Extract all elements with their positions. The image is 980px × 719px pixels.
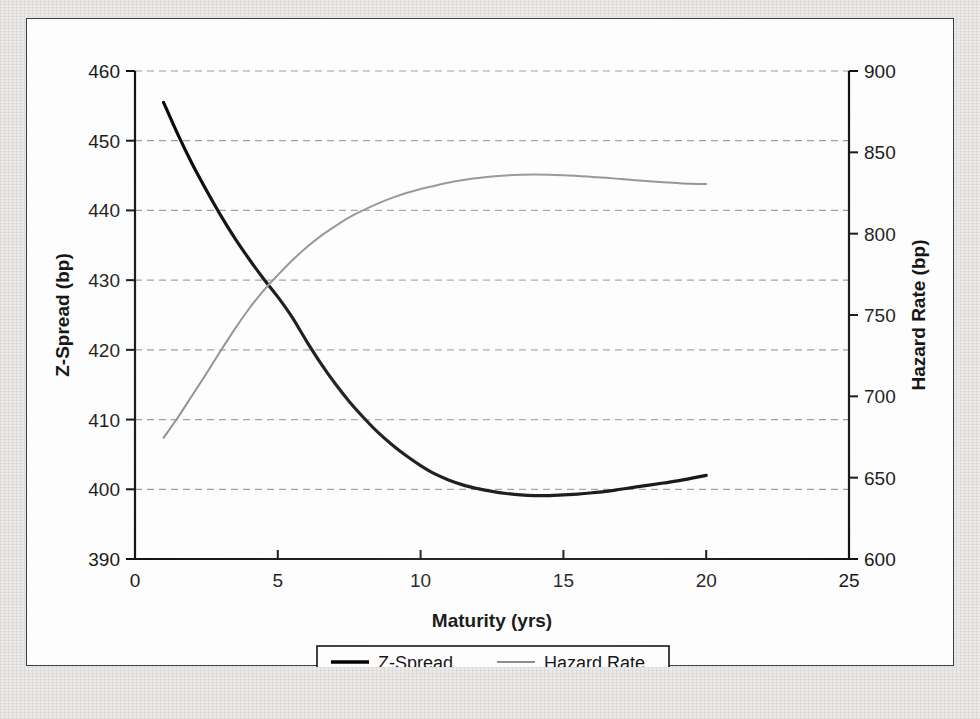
x-tick-label: 25 (838, 570, 859, 591)
y-tick-label: 430 (88, 270, 120, 291)
y2-tick-label: 700 (864, 386, 896, 407)
series-group (164, 102, 707, 495)
x-axis-ticks (135, 550, 849, 559)
y-axis-title: Z-Spread (bp) (52, 253, 73, 377)
y2-tick-label: 800 (864, 224, 896, 245)
x-tick-label: 15 (553, 570, 574, 591)
left-axis-ticks (126, 71, 135, 559)
x-tick-label: 20 (696, 570, 717, 591)
y-tick-label: 420 (88, 340, 120, 361)
x-tick-label: 0 (130, 570, 141, 591)
x-tick-label: 5 (273, 570, 284, 591)
y2-tick-label: 650 (864, 468, 896, 489)
y-tick-label: 410 (88, 410, 120, 431)
y2-tick-label: 750 (864, 305, 896, 326)
y-tick-label: 440 (88, 200, 120, 221)
left-axis: 390400410420430440450460 (88, 61, 135, 570)
y2-tick-label: 850 (864, 142, 896, 163)
legend-label-hazard-rate: Hazard Rate (544, 653, 645, 667)
right-axis-ticks (849, 71, 858, 559)
chart-panel: 390400410420430440450460 600650700750800… (26, 18, 954, 666)
y2-tick-label: 900 (864, 61, 896, 82)
right-axis-tick-labels: 600650700750800850900 (864, 61, 896, 570)
y2-axis-title: Hazard Rate (bp) (908, 240, 929, 391)
y-tick-label: 400 (88, 479, 120, 500)
series-line-z-spread (164, 102, 707, 495)
series-line-hazard-rate (164, 175, 707, 438)
x-axis-title: Maturity (yrs) (432, 610, 552, 631)
right-axis: 600650700750800850900 (849, 61, 896, 570)
y-tick-label: 450 (88, 131, 120, 152)
x-tick-label: 10 (410, 570, 431, 591)
line-chart: 390400410420430440450460 600650700750800… (27, 19, 955, 667)
y-tick-label: 390 (88, 549, 120, 570)
y-tick-label: 460 (88, 61, 120, 82)
legend-label-z-spread: Z-Spread (378, 653, 453, 667)
gridlines (135, 71, 849, 489)
x-axis-tick-labels: 0510152025 (130, 570, 860, 591)
y2-tick-label: 600 (864, 549, 896, 570)
x-axis: 0510152025 (130, 550, 860, 591)
figure-page: 390400410420430440450460 600650700750800… (0, 0, 980, 719)
chart-legend: Z-Spread Hazard Rate (317, 646, 669, 667)
left-axis-tick-labels: 390400410420430440450460 (88, 61, 120, 570)
